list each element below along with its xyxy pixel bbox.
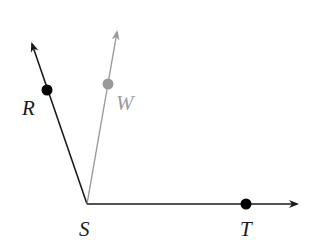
label-t: T <box>240 217 253 241</box>
point-r <box>42 85 53 96</box>
label-w: W <box>116 91 136 115</box>
label-r: R <box>21 96 35 120</box>
label-s: S <box>79 217 90 241</box>
ray-sw <box>87 32 117 204</box>
angle-diagram: R W S T <box>0 0 316 251</box>
ray-sr <box>32 44 87 204</box>
point-w <box>103 79 114 90</box>
point-t <box>241 199 252 210</box>
